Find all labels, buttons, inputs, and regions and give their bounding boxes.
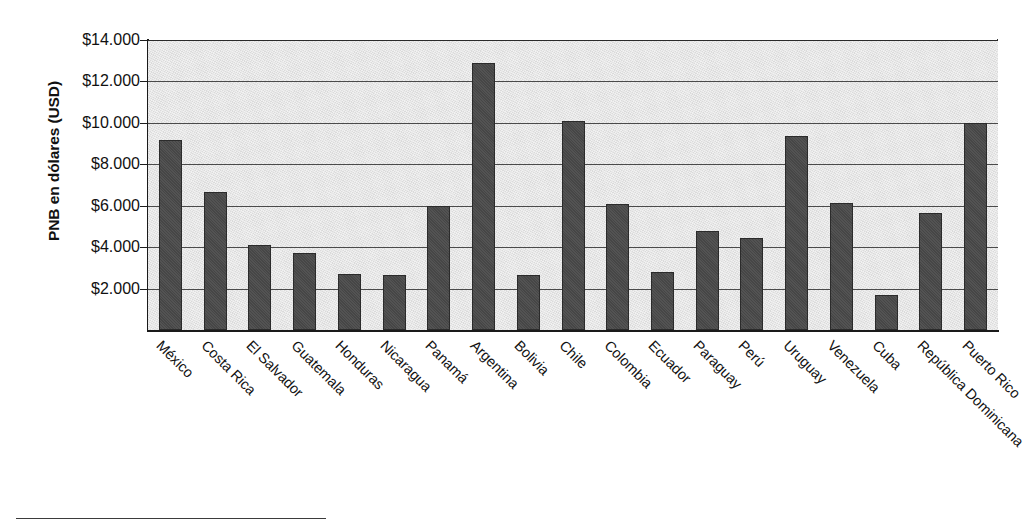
y-axis-tick-labels: $2.000$4.000$6.000$8.000$10.000$12.000$1… bbox=[36, 0, 140, 532]
x-axis-tick-label: Perú bbox=[735, 338, 767, 370]
x-axis-tick-labels: MéxicoCosta RicaEl SalvadorGuatemalaHond… bbox=[148, 332, 998, 502]
bar bbox=[785, 136, 808, 330]
bar bbox=[338, 274, 361, 330]
y-axis-tick-mark bbox=[140, 206, 148, 207]
bar bbox=[964, 123, 987, 330]
bar bbox=[875, 295, 898, 330]
bar bbox=[293, 253, 316, 330]
bar bbox=[919, 213, 942, 330]
y-axis-tick-label: $14.000 bbox=[44, 32, 140, 48]
y-axis-tick-label: $2.000 bbox=[44, 281, 140, 297]
bar bbox=[204, 192, 227, 330]
bar bbox=[830, 203, 853, 330]
bar bbox=[562, 121, 585, 330]
bar bbox=[651, 272, 674, 330]
y-axis-tick-mark bbox=[140, 123, 148, 124]
bar bbox=[383, 275, 406, 330]
y-axis-tick-label: $4.000 bbox=[44, 239, 140, 255]
x-axis-tick-label: México bbox=[154, 338, 197, 381]
x-axis-tick-label: Cuba bbox=[870, 338, 905, 373]
bar bbox=[696, 231, 719, 330]
y-axis-tick-mark bbox=[140, 40, 148, 41]
bar bbox=[740, 238, 763, 330]
gridline bbox=[148, 40, 998, 41]
y-axis-tick-label: $8.000 bbox=[44, 156, 140, 172]
gridline bbox=[148, 81, 998, 82]
y-axis-tick-mark bbox=[140, 289, 148, 290]
y-axis-tick-label: $10.000 bbox=[44, 115, 140, 131]
bar bbox=[517, 275, 540, 330]
bar bbox=[427, 206, 450, 330]
x-axis-tick-label: Uruguay bbox=[780, 338, 829, 387]
y-axis-tick-mark bbox=[140, 164, 148, 165]
x-axis-tick-label: Bolivia bbox=[512, 338, 552, 378]
bar bbox=[472, 63, 495, 330]
plot-area bbox=[148, 40, 998, 330]
bar bbox=[159, 140, 182, 330]
bar bbox=[606, 204, 629, 330]
x-axis-tick-label: Chile bbox=[556, 338, 590, 372]
y-axis-tick-label: $6.000 bbox=[44, 198, 140, 214]
y-axis-tick-mark bbox=[140, 247, 148, 248]
bar bbox=[248, 245, 271, 330]
y-axis-tick-label: $12.000 bbox=[44, 73, 140, 89]
y-axis-tick-mark bbox=[140, 81, 148, 82]
footnote-rule bbox=[16, 518, 326, 519]
